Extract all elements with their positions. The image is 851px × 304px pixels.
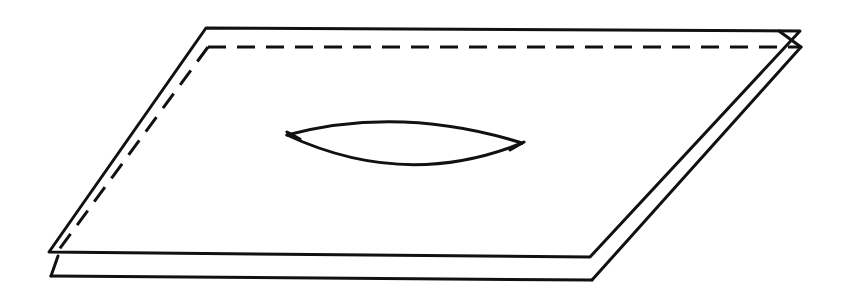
- lens-opening: [287, 122, 524, 165]
- visible-edge: [592, 47, 801, 280]
- upper-plane: [49, 28, 800, 257]
- visible-edge: [51, 256, 58, 276]
- visible-edge: [51, 276, 592, 280]
- upper-plane-outline: [49, 28, 800, 257]
- lens-lower-arc: [287, 135, 522, 165]
- planes-diagram: [0, 0, 851, 304]
- lower-plane: [51, 31, 801, 280]
- diagram-canvas: Two parallel planes with lens-shaped ope…: [0, 0, 851, 304]
- hidden-edge: [58, 47, 208, 251]
- lens-upper-arc: [287, 122, 522, 143]
